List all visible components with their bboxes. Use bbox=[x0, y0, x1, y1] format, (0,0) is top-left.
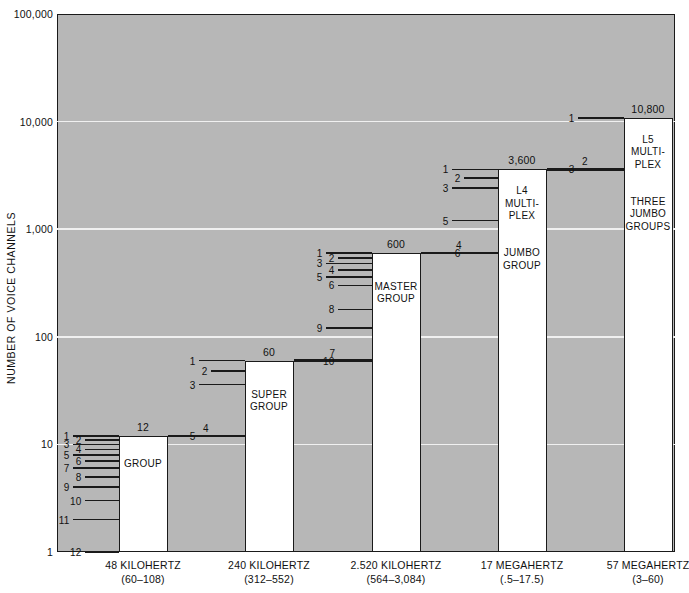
subdivision-tick-number: 2 bbox=[202, 366, 208, 377]
subdivision-tick-line bbox=[464, 177, 498, 179]
y-axis-tick-label: 100 bbox=[35, 331, 53, 343]
subdivision-tick-number: 2 bbox=[329, 252, 335, 263]
bar-title-master-group: MASTER GROUP bbox=[374, 281, 417, 306]
subdivision-tick-number: 4 bbox=[76, 444, 82, 455]
subdivision-tick-number: 1 bbox=[190, 355, 196, 366]
x-axis-label-bandwidth: 17 MEGAHERTZ bbox=[481, 558, 564, 572]
subdivision-tick-number: 5 bbox=[317, 271, 323, 282]
bar-jumbo-group[interactable] bbox=[498, 169, 547, 552]
subdivision-tick-line bbox=[85, 551, 119, 553]
subdivision-tick-line bbox=[199, 384, 245, 386]
x-axis-label-range: (312–552) bbox=[228, 572, 310, 586]
bar-title-jumbo-group: L4 MULTI- PLEX bbox=[505, 185, 539, 222]
subdivision-tick-line bbox=[338, 269, 372, 271]
subdivision-tick-number: 1 bbox=[569, 113, 575, 124]
subdivision-tick-line bbox=[85, 460, 119, 462]
subdivision-tick-line bbox=[326, 327, 372, 329]
subdivision-tick-line bbox=[73, 519, 119, 521]
subdivision-tick-number: 3 bbox=[190, 379, 196, 390]
subdivision-tick-line bbox=[578, 117, 624, 119]
x-axis-label-range: (564–3,084) bbox=[351, 572, 442, 586]
bar-title-three-jumbo-groups: L5 MULTI- PLEX bbox=[631, 134, 665, 171]
bar-three-jumbo-groups[interactable] bbox=[624, 118, 673, 552]
subdivision-tick-number: 9 bbox=[64, 482, 70, 493]
subdivision-tick-number: 11 bbox=[59, 514, 70, 525]
subdivision-tick-number: 6 bbox=[76, 456, 82, 467]
y-axis-tick-label: 100,000 bbox=[14, 8, 53, 20]
subdivision-tick-number: 6 bbox=[329, 280, 335, 291]
x-axis-label-range: (.5–17.5) bbox=[481, 572, 564, 586]
subdivision-tick-line bbox=[85, 500, 119, 502]
subdivision-tick-number: 7 bbox=[64, 463, 70, 474]
y-axis-tick-label: 10 bbox=[41, 438, 53, 450]
subdivision-tick-line bbox=[338, 257, 372, 259]
subdivision-tick-line bbox=[73, 467, 119, 469]
gridline bbox=[57, 336, 675, 338]
subdivision-tick-line bbox=[338, 309, 372, 311]
y-axis-tick-label: 10,000 bbox=[20, 116, 53, 128]
subdivision-tick-line bbox=[199, 360, 245, 362]
subdivision-tick-number: 3 bbox=[443, 183, 449, 194]
x-axis-label-range: (60–108) bbox=[105, 572, 181, 586]
x-axis-label-bandwidth: 48 KILOHERTZ bbox=[105, 558, 181, 572]
bar-subtitle-jumbo-group: JUMBO GROUP bbox=[503, 247, 541, 272]
bar-group[interactable] bbox=[119, 436, 168, 552]
bar-title-group: GROUP bbox=[124, 458, 162, 470]
subdivision-tick-number: 1 bbox=[443, 164, 449, 175]
subdivision-tick-line bbox=[338, 285, 372, 287]
y-axis: NUMBER OF VOICE CHANNELS bbox=[0, 0, 53, 593]
subdivision-tick-number: 12 bbox=[70, 547, 82, 558]
subdivision-tick-number: 5 bbox=[190, 430, 196, 441]
subdivision-tick-number: 1 bbox=[317, 248, 323, 259]
clipped-caption: —— — — —— — — — —— — bbox=[3, 585, 173, 589]
y-axis-tick-label: 1,000 bbox=[26, 223, 53, 235]
x-axis-label-super-group: 240 KILOHERTZ(312–552) bbox=[228, 558, 310, 586]
subdivision-tick-line bbox=[85, 439, 119, 441]
subdivision-tick-number: 8 bbox=[76, 471, 82, 482]
x-axis-label-bandwidth: 240 KILOHERTZ bbox=[228, 558, 310, 572]
subdivision-tick-line bbox=[85, 449, 119, 451]
gridline bbox=[57, 121, 675, 123]
bar-value-label-jumbo-group: 3,600 bbox=[508, 154, 535, 166]
subdivision-tick-number: 3 bbox=[569, 164, 575, 175]
subdivision-tick-number: 10 bbox=[70, 495, 82, 506]
gridline bbox=[57, 228, 675, 230]
subdivision-tick-line bbox=[211, 370, 245, 372]
group-connector-number: 4 bbox=[456, 240, 462, 251]
x-axis-label-range: (3–60) bbox=[607, 572, 689, 586]
subdivision-tick-number: 4 bbox=[329, 264, 335, 275]
bar-title-super-group: SUPER GROUP bbox=[250, 389, 288, 414]
x-axis-label-master-group: 2.520 KILOHERTZ(564–3,084) bbox=[351, 558, 442, 586]
subdivision-tick-line bbox=[326, 276, 372, 278]
subdivision-tick-number: 9 bbox=[317, 323, 323, 334]
bar-value-label-master-group: 600 bbox=[387, 238, 405, 250]
group-connector-line bbox=[168, 435, 245, 438]
bar-subtitle-three-jumbo-groups: THREE JUMBO GROUPS bbox=[626, 196, 671, 233]
bar-value-label-super-group: 60 bbox=[263, 346, 275, 358]
x-axis-label-bandwidth: 57 MEGAHERTZ bbox=[607, 558, 689, 572]
y-axis-title: NUMBER OF VOICE CHANNELS bbox=[5, 203, 17, 393]
subdivision-tick-number: 8 bbox=[329, 304, 335, 315]
y-axis-tick-label: 1 bbox=[47, 546, 53, 558]
x-axis-label-group: 48 KILOHERTZ(60–108) bbox=[105, 558, 181, 586]
bar-value-label-group: 12 bbox=[137, 421, 149, 433]
x-axis-label-three-jumbo-groups: 57 MEGAHERTZ(3–60) bbox=[607, 558, 689, 586]
subdivision-tick-line bbox=[85, 476, 119, 478]
subdivision-tick-line bbox=[452, 169, 498, 171]
x-axis-label-bandwidth: 2.520 KILOHERTZ bbox=[351, 558, 442, 572]
subdivision-tick-line bbox=[73, 486, 119, 488]
subdivision-tick-line bbox=[452, 220, 498, 222]
group-connector-number: 2 bbox=[582, 156, 588, 167]
group-connector-number: 4 bbox=[203, 423, 209, 434]
bar-value-label-three-jumbo-groups: 10,800 bbox=[631, 103, 664, 115]
subdivision-tick-line bbox=[452, 187, 498, 189]
subdivision-tick-number: 5 bbox=[443, 215, 449, 226]
subdivision-tick-number: 5 bbox=[64, 449, 70, 460]
group-connector-line bbox=[547, 168, 624, 171]
group-connector-number: 7 bbox=[330, 348, 336, 359]
subdivision-tick-number: 3 bbox=[317, 258, 323, 269]
x-axis-label-jumbo-group: 17 MEGAHERTZ(.5–17.5) bbox=[481, 558, 564, 586]
subdivision-tick-number: 2 bbox=[455, 172, 461, 183]
subdivision-tick-number: 3 bbox=[64, 439, 70, 450]
